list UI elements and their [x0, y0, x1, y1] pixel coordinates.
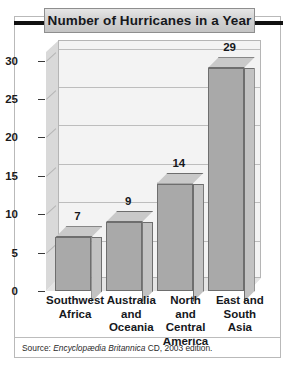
chart-figure: Number of Hurricanes in a Year 791429 05…	[0, 0, 299, 375]
y-axis-tick-label: 0	[12, 285, 18, 297]
category-label: SouthwestAfrica	[46, 294, 104, 348]
bar-side-face	[193, 184, 204, 302]
bar	[106, 222, 142, 291]
y-axis-tick-mark	[38, 214, 45, 215]
category-label-line: and	[104, 308, 158, 322]
bar-value-label: 9	[110, 195, 146, 207]
y-axis-tick-mark	[38, 291, 45, 292]
bar	[157, 184, 193, 291]
category-label-line: Australia	[104, 294, 158, 308]
chart-title: Number of Hurricanes in a Year	[48, 13, 252, 28]
bar-side-face	[91, 237, 102, 302]
source-prefix: Source:	[22, 343, 51, 353]
y-axis-tick-mark	[38, 253, 45, 254]
y-axis-tick-label: 25	[5, 93, 18, 105]
source-suffix: CD, 2003 edition.	[148, 343, 213, 353]
category-label: East andSouth Asia	[213, 294, 267, 348]
bar-front-face	[157, 184, 193, 291]
category-label: AustraliaandOceania	[104, 294, 158, 348]
category-label: North andCentralAmerica	[158, 294, 212, 348]
bar-front-face	[106, 222, 142, 291]
category-label-line: Oceania	[104, 321, 158, 335]
bar	[208, 68, 244, 291]
y-axis-tick-label: 5	[12, 247, 18, 259]
source-divider	[15, 337, 280, 338]
category-label-line: Southwest	[46, 294, 104, 308]
bar-front-face	[208, 68, 244, 291]
source-note: Source: Encyclopædia Britannica CD, 2003…	[22, 343, 212, 353]
y-axis-tick-label: 20	[5, 131, 18, 143]
plot-area: 791429	[46, 40, 261, 290]
bar-front-face	[55, 237, 91, 291]
source-work-title: Encyclopædia Britannica	[53, 343, 145, 353]
bar-value-label: 7	[59, 210, 95, 222]
x-axis-category-labels: SouthwestAfricaAustraliaandOceaniaNorth …	[46, 294, 267, 348]
y-axis-tick-label: 15	[5, 170, 18, 182]
y-axis-tick-mark	[38, 176, 45, 177]
category-label-line: Central	[158, 321, 212, 335]
category-label-line: North and	[158, 294, 212, 321]
y-axis-tick-mark	[38, 61, 45, 62]
y-axis-tick-mark	[38, 99, 45, 100]
category-label-line: East and	[213, 294, 267, 308]
category-label-line: South Asia	[213, 308, 267, 335]
y-axis-tick-label: 30	[5, 55, 18, 67]
bar-side-face	[142, 222, 153, 302]
y-axis-tick-label: 10	[5, 208, 18, 220]
chart-title-box: Number of Hurricanes in a Year	[44, 8, 255, 33]
bar-side-face	[244, 68, 255, 302]
title-rule-right	[251, 21, 283, 25]
bar-value-label: 29	[212, 41, 248, 53]
bar-value-label: 14	[161, 157, 197, 169]
y-axis: 051015202530	[14, 0, 46, 375]
y-axis-tick-mark	[38, 137, 45, 138]
bar	[55, 237, 91, 291]
category-label-line: Africa	[46, 308, 104, 322]
